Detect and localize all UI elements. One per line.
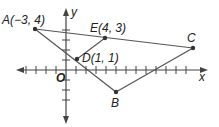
point-D [75,57,79,61]
label-D: D(1, 1) [82,51,119,65]
x-axis [16,66,208,74]
point-A [33,27,37,31]
origin-label: O [56,71,66,85]
point-B [114,90,118,94]
label-B: B [111,96,119,110]
label-E: E(4, 3) [90,21,126,35]
x-axis-label: x [198,70,206,84]
x-axis-left-arrow-icon [16,67,24,73]
y-axis [62,8,70,124]
y-axis-down-arrow-icon [63,116,69,124]
point-C [191,46,195,50]
coordinate-diagram: A(−3, 4) E(4, 3) D(1, 1) C B y x O [0,0,219,127]
y-axis-label: y [70,5,78,19]
point-E [103,36,107,40]
label-C: C [187,31,196,45]
label-A: A(−3, 4) [1,13,45,27]
y-axis-up-arrow-icon [63,8,69,16]
